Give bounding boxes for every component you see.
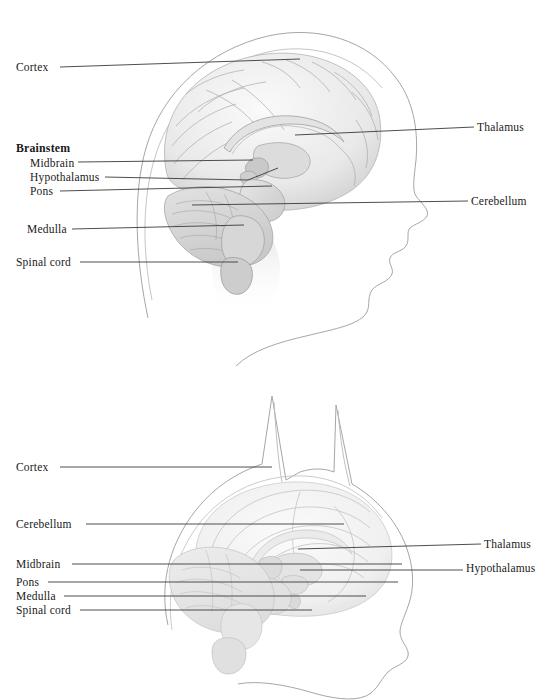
label-human-cerebellum: Cerebellum xyxy=(471,196,527,208)
label-human-pons: Pons xyxy=(30,186,53,198)
cat-spinal-cord xyxy=(212,638,246,674)
human-head-diagram xyxy=(0,0,550,380)
human-spinal-cord xyxy=(221,258,253,295)
label-cat-spinal-cord: Spinal cord xyxy=(16,605,71,617)
label-human-medulla: Medulla xyxy=(27,224,67,236)
label-cat-hypothalamus: Hypothalamus xyxy=(466,563,535,575)
cat-head-diagram xyxy=(0,380,550,700)
label-cat-medulla: Medulla xyxy=(16,591,56,603)
label-cat-cortex: Cortex xyxy=(16,462,49,474)
label-cat-thalamus: Thalamus xyxy=(484,539,531,551)
label-human-brainstem-heading: Brainstem xyxy=(16,143,70,155)
label-human-thalamus: Thalamus xyxy=(477,122,524,134)
label-cat-midbrain: Midbrain xyxy=(16,559,60,571)
label-human-midbrain: Midbrain xyxy=(30,158,74,170)
label-human-hypothalamus: Hypothalamus xyxy=(30,172,99,184)
cat-ear-left-inner xyxy=(274,402,282,482)
label-cat-cerebellum: Cerebellum xyxy=(16,519,72,531)
label-cat-pons: Pons xyxy=(16,577,39,589)
brain-comparison-figure: Cortex Brainstem Midbrain Hypothalamus P… xyxy=(0,0,550,700)
label-human-cortex: Cortex xyxy=(16,62,49,74)
label-human-spinal-cord: Spinal cord xyxy=(16,257,71,269)
